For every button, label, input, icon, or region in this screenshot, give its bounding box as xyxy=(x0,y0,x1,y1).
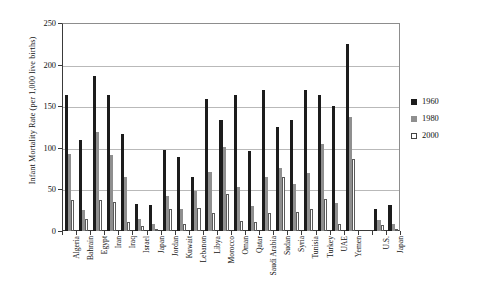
x-label-japan: Japan xyxy=(396,236,405,253)
x-tick-mark-15 xyxy=(273,231,274,235)
y-tick-label-200: 200 xyxy=(16,60,56,69)
x-tick-mark-10 xyxy=(203,231,204,235)
y-tick-label-0: 0 xyxy=(16,227,56,236)
x-tick-mark-7 xyxy=(161,231,162,235)
bar-group-algeria xyxy=(65,23,75,231)
x-label-uae: UAE xyxy=(340,236,349,252)
x-tick-mark-16 xyxy=(287,231,288,235)
bar-algeria-2000 xyxy=(71,200,74,231)
x-tick-mark-23 xyxy=(386,231,387,235)
x-label-oman: Oman xyxy=(241,236,250,255)
x-tick-mark-21 xyxy=(358,231,359,235)
x-label-syria: Syria xyxy=(297,236,306,252)
x-label-algeria: Algeria xyxy=(72,236,81,259)
bar-group-israel xyxy=(135,23,145,231)
x-label-jordan: Jordan xyxy=(171,236,180,256)
legend-swatch-2000 xyxy=(411,133,417,139)
x-tick-mark-end xyxy=(400,231,401,235)
x-label-egypt: Egypt xyxy=(100,236,109,254)
bar-group-japan xyxy=(388,23,398,231)
y-tick-label-150: 150 xyxy=(16,102,56,111)
bar-yemen-2000 xyxy=(352,159,355,231)
x-label-yemen: Yemen xyxy=(354,236,363,257)
bar-saudi-arabia-2000 xyxy=(268,213,271,231)
x-tick-mark-12 xyxy=(231,231,232,235)
bar-iraq-2000 xyxy=(127,222,130,231)
bar-qatar-2000 xyxy=(254,222,257,231)
bar-syria-2000 xyxy=(296,212,299,231)
bar-group-japan xyxy=(149,23,159,231)
legend-label-1960: 1960 xyxy=(422,97,439,106)
bar-group-bahrain xyxy=(79,23,89,231)
bar-bahrain-2000 xyxy=(85,219,88,231)
y-tick-label-50: 50 xyxy=(16,185,56,194)
x-tick-mark-13 xyxy=(245,231,246,235)
bar-group-sudan xyxy=(276,23,286,231)
bar-turkey-2000 xyxy=(324,199,327,231)
x-label-sudan: Sudan xyxy=(283,236,292,255)
bar-jordan-2000 xyxy=(169,209,172,231)
bar-group-morocco xyxy=(219,23,229,231)
x-label-morocco: Morocco xyxy=(227,236,236,263)
legend-item-2000: 2000 xyxy=(411,129,439,142)
x-label-bahrain: Bahrain xyxy=(86,236,95,260)
bar-group-egypt xyxy=(93,23,103,231)
x-label-israel: Israel xyxy=(142,236,151,253)
bar-uae-2000 xyxy=(338,224,341,231)
legend-swatch-1960 xyxy=(411,99,417,105)
bar-group-oman xyxy=(234,23,244,231)
bar-group-libya xyxy=(205,23,215,231)
x-tick-mark-20 xyxy=(344,231,345,235)
bar-group-yemen xyxy=(346,23,356,231)
bar-group-tunisia xyxy=(304,23,314,231)
x-tick-mark-19 xyxy=(330,231,331,235)
x-tick-mark-14 xyxy=(259,231,260,235)
x-tick-mark-11 xyxy=(217,231,218,235)
x-label-kuwait: Kuwait xyxy=(185,236,194,258)
x-tick-mark-0 xyxy=(62,231,63,235)
bar-group-u-s xyxy=(374,23,384,231)
bar-egypt-2000 xyxy=(99,200,102,231)
bar-group-jordan xyxy=(163,23,173,231)
bar-series-container xyxy=(62,23,400,231)
x-label-qatar: Qatar xyxy=(255,236,264,253)
bar-group-lebanon xyxy=(191,23,201,231)
x-label-turkey: Turkey xyxy=(326,236,335,258)
legend-label-2000: 2000 xyxy=(422,131,439,140)
x-axis-category-labels: AlgeriaBahrainEgyptIranIraqIsraelJapanJo… xyxy=(0,236,480,305)
bar-morocco-2000 xyxy=(226,194,229,231)
y-tick-label-100: 100 xyxy=(16,143,56,152)
x-tick-mark-4 xyxy=(118,231,119,235)
x-label-iraq: Iraq xyxy=(128,236,137,248)
x-tick-mark-8 xyxy=(175,231,176,235)
x-tick-mark-3 xyxy=(104,231,105,235)
x-tick-mark-6 xyxy=(147,231,148,235)
x-tick-mark-17 xyxy=(301,231,302,235)
x-tick-mark-18 xyxy=(316,231,317,235)
bar-oman-2000 xyxy=(240,221,243,231)
x-label-u-s: U.S. xyxy=(382,236,391,250)
bar-group-turkey xyxy=(318,23,328,231)
x-tick-mark-9 xyxy=(189,231,190,235)
x-label-iran: Iran xyxy=(114,236,123,248)
legend-item-1980: 1980 xyxy=(411,112,439,125)
x-tick-mark-2 xyxy=(90,231,91,235)
x-label-saudi-arabia: Saudi Arabia xyxy=(269,236,278,275)
y-tick-label-250: 250 xyxy=(16,19,56,28)
x-tick-mark-5 xyxy=(132,231,133,235)
x-label-libya: Libya xyxy=(213,236,222,254)
bar-group-iraq xyxy=(121,23,131,231)
bar-iran-2000 xyxy=(113,202,116,231)
infant-mortality-bar-chart: Infant Mortality Rate (per 1,000 live bi… xyxy=(0,0,480,305)
legend-item-1960: 1960 xyxy=(411,95,439,108)
bar-sudan-2000 xyxy=(282,177,285,231)
bar-libya-2000 xyxy=(212,213,215,231)
x-tick-mark-22 xyxy=(372,231,373,235)
chart-legend: 1960 1980 2000 xyxy=(411,95,439,146)
bar-group-saudi-arabia xyxy=(262,23,272,231)
bar-tunisia-2000 xyxy=(310,209,313,231)
bar-group-iran xyxy=(107,23,117,231)
x-label-lebanon: Lebanon xyxy=(199,236,208,263)
x-label-tunisia: Tunisia xyxy=(311,236,320,259)
bar-group-uae xyxy=(332,23,342,231)
